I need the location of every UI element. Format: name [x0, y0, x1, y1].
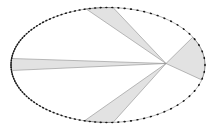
orbit-dot — [13, 77, 15, 80]
orbit-dot — [73, 118, 76, 120]
orbit-dot — [117, 121, 120, 123]
orbit-dot — [149, 12, 152, 14]
orbit-dot — [60, 13, 63, 15]
orbit-dot — [123, 121, 126, 123]
orbit-dot — [52, 111, 55, 113]
orbit-dot — [14, 80, 17, 83]
orbit-dot — [176, 104, 179, 107]
orbit-dot — [204, 64, 206, 67]
orbit-dot — [156, 113, 159, 115]
orbit-dot — [156, 14, 159, 16]
orbit-dot — [45, 108, 48, 111]
orbit-dot — [69, 117, 72, 119]
orbit-dot — [64, 12, 67, 14]
sector-left — [11, 58, 166, 70]
orbit-diagram-svg — [0, 0, 216, 131]
orbit-dot — [136, 9, 139, 11]
orbit-dot — [10, 64, 12, 67]
sector-top — [86, 8, 166, 64]
orbit-dot — [143, 117, 146, 119]
orbit-dot — [60, 114, 63, 116]
orbit-dot — [163, 111, 166, 113]
orbit-dot — [52, 16, 55, 18]
orbit-dot — [170, 107, 173, 110]
orbit-dot — [78, 9, 81, 11]
orbit-dot — [45, 19, 48, 22]
orbit-dot — [15, 82, 18, 85]
orbit-dot — [38, 105, 41, 108]
sector-right — [166, 37, 205, 80]
orbit-dot — [78, 119, 81, 121]
orbit-dot — [42, 21, 45, 24]
orbit-dot — [123, 7, 126, 9]
orbit-dot — [64, 116, 67, 118]
orbit-dot — [130, 120, 133, 122]
orbit-dot — [163, 17, 166, 19]
orbit-dot — [42, 106, 45, 109]
orbit-dot — [56, 15, 59, 17]
orbit-dot — [12, 75, 14, 78]
kepler-ellipse-figure — [0, 0, 216, 131]
orbit-dot — [149, 115, 152, 117]
orbit-dot — [56, 113, 59, 115]
orbit-dot — [83, 8, 86, 10]
orbit-dot — [176, 24, 179, 27]
orbit-dot — [15, 45, 18, 48]
orbit-dot — [48, 18, 51, 20]
sector-bottom — [85, 64, 166, 123]
orbit-dot — [11, 54, 13, 57]
orbit-dot — [11, 73, 13, 76]
orbit-dot — [12, 52, 14, 55]
orbit-dot — [170, 20, 173, 23]
orbit-dot — [130, 8, 133, 10]
orbit-dot — [117, 7, 120, 9]
orbit-dot — [143, 11, 146, 13]
orbit-dot — [69, 11, 72, 13]
orbit-dot — [38, 23, 41, 26]
orbit-dot — [11, 71, 13, 74]
orbit-dot — [14, 47, 17, 50]
orbit-dot — [73, 10, 76, 12]
orbit-dot — [136, 119, 139, 121]
orbit-dot — [48, 110, 51, 112]
orbit-dot — [13, 50, 15, 53]
